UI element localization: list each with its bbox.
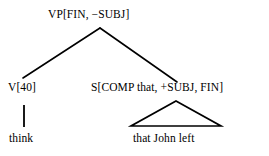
node-label-v: V[40] (8, 81, 36, 94)
node-label-vp-root: VP[FIN, −SUBJ] (48, 8, 129, 21)
terminal-label-clause: that John left (133, 132, 194, 145)
branch-root-to-v (23, 28, 100, 78)
parse-tree-figure: VP[FIN, −SUBJ] V[40] S[COMP that, +SUBJ,… (0, 0, 269, 156)
node-label-s: S[COMP that, +SUBJ, FIN] (91, 81, 223, 94)
terminal-label-think: think (9, 132, 33, 145)
elision-triangle (131, 101, 221, 126)
branch-root-to-s (100, 28, 177, 82)
